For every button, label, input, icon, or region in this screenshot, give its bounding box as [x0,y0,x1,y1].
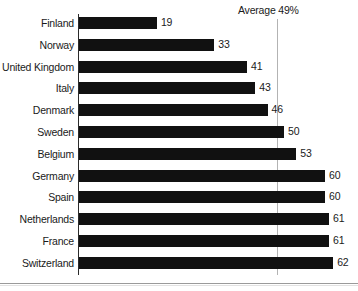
bar-category-label: United Kingdom [2,61,74,73]
bar-category-label: Norway [40,39,74,51]
bar [79,235,329,247]
bar-value-label: 62 [337,256,348,268]
bar-track [79,148,296,160]
bar-category-label: Italy [56,82,74,94]
bar [79,191,325,203]
bar [79,104,268,116]
bar-category-label: Spain [48,191,74,203]
bar [79,17,157,29]
bar-row: Sweden50 [0,123,358,145]
bar-track [79,104,268,116]
bar-track [79,126,284,138]
bar-row: France61 [0,232,358,254]
bottom-divider [0,283,358,284]
bar-value-label: 46 [272,103,283,115]
bar-row: Denmark46 [0,101,358,123]
bar-row: Switzerland62 [0,254,358,276]
bar-track [79,61,247,73]
bar-value-label: 61 [333,212,344,224]
bar-track [79,213,329,225]
bar-value-label: 41 [251,60,262,72]
bar-chart: Average 49% Finland19Norway33United King… [0,0,358,291]
bar-value-label: 50 [288,125,299,137]
bar-row: Netherlands61 [0,210,358,232]
bar-category-label: Netherlands [20,213,74,225]
bar-track [79,170,325,182]
bar-row: Spain60 [0,188,358,210]
bottom-divider-shadow [0,285,358,286]
bar-value-label: 19 [161,16,172,28]
bar-category-label: Sweden [37,126,74,138]
bar [79,39,214,51]
bar [79,126,284,138]
bar [79,170,325,182]
bar-track [79,82,255,94]
bar-value-label: 33 [218,38,229,50]
bar [79,257,333,269]
bar-track [79,191,325,203]
bar-row: Italy43 [0,79,358,101]
bar-row: Germany60 [0,167,358,189]
bar-value-label: 60 [329,190,340,202]
bar-value-label: 43 [259,81,270,93]
bar-value-label: 53 [300,147,311,159]
bar-category-label: Belgium [37,148,74,160]
bar [79,61,247,73]
bar-category-label: Finland [41,17,74,29]
bar-row: Finland19 [0,14,358,36]
bar-track [79,17,157,29]
bar-category-label: Switzerland [22,257,74,269]
bar-category-label: Germany [32,170,74,182]
bar-row: United Kingdom41 [0,58,358,80]
bar-category-label: France [43,235,74,247]
bar [79,148,296,160]
bar-category-label: Denmark [33,104,74,116]
bar-value-label: 60 [329,169,340,181]
bar-track [79,257,333,269]
bar [79,82,255,94]
bar-track [79,235,329,247]
bar-value-label: 61 [333,234,344,246]
bar-track [79,39,214,51]
plot-area: Finland19Norway33United Kingdom41Italy43… [0,14,358,276]
bar [79,213,329,225]
bar-row: Norway33 [0,36,358,58]
bar-row: Belgium53 [0,145,358,167]
